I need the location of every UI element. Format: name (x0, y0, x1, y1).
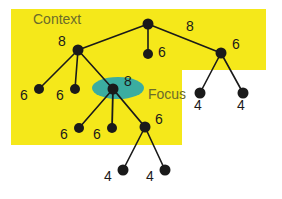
node-6-focus-c-value: 6 (155, 111, 163, 127)
edge-labels-layer: 8 (186, 18, 194, 34)
focus-text: Focus (148, 86, 186, 102)
edge-label-8: 8 (186, 18, 194, 34)
edge-focus-l6d (112, 89, 113, 128)
node-6-right[interactable] (216, 48, 227, 59)
node-8-left[interactable] (73, 45, 84, 56)
leaf-6-left-value: 6 (56, 87, 64, 103)
leaf-4-bottom-a-value: 4 (104, 168, 112, 184)
node-6-focus-c[interactable] (140, 122, 151, 133)
leaf-4-bottom-b[interactable] (160, 165, 171, 176)
node-6-right-value: 6 (232, 36, 240, 52)
leaf-6-focus-b[interactable] (107, 123, 117, 133)
leaf-6-left[interactable] (70, 84, 80, 94)
leaf-6-far-left-value: 6 (20, 87, 28, 103)
leaf-6-focus-a-value: 6 (60, 126, 68, 142)
leaf-6-focus-b-value: 6 (93, 126, 101, 142)
context-text: Context (33, 11, 81, 27)
node-6-center[interactable] (143, 49, 153, 59)
node-8-left-value: 8 (58, 33, 66, 49)
node-root[interactable] (143, 19, 154, 30)
leaf-6-far-left[interactable] (34, 84, 44, 94)
node-8-focus[interactable] (108, 84, 119, 95)
tree-diagram-figure: 8666686664444 8 ContextFocus (0, 0, 282, 199)
leaf-4-right-a-value: 4 (194, 97, 202, 113)
node-8-focus-value: 8 (124, 73, 132, 89)
leaf-6-focus-a[interactable] (74, 123, 84, 133)
leaf-4-bottom-b-value: 4 (146, 168, 154, 184)
leaf-4-right-b-value: 4 (237, 97, 245, 113)
leaf-4-bottom-a[interactable] (118, 165, 129, 176)
node-6-center-value: 6 (158, 44, 166, 60)
context-regions (11, 9, 266, 145)
